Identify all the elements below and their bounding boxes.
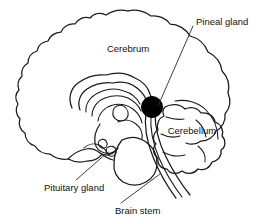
brain-diagram-svg: Cerebrum Pineal gland Cerebellum Pituita… — [0, 0, 277, 224]
label-brain-stem: Brain stem — [115, 205, 160, 216]
pineal-gland-marker — [142, 97, 163, 118]
label-cerebrum: Cerebrum — [107, 43, 149, 54]
label-pituitary-gland: Pituitary gland — [44, 182, 104, 193]
label-cerebellum: Cerebellum — [168, 125, 217, 136]
label-pineal-gland: Pineal gland — [196, 16, 248, 27]
brain-diagram-figure: Cerebrum Pineal gland Cerebellum Pituita… — [0, 0, 277, 224]
